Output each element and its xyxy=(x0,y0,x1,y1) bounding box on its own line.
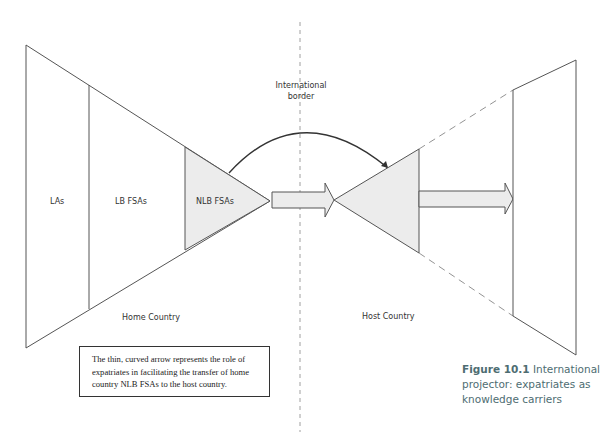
nlb-fsas-label: NLB FSAs xyxy=(196,197,234,206)
expansion-line-bottom xyxy=(419,253,513,316)
curved-arrow-head-icon xyxy=(381,161,388,168)
international-border-label-line1: International xyxy=(271,80,331,91)
host-block-arrow xyxy=(419,183,513,214)
home-country-label: Home Country xyxy=(122,313,180,322)
host-country-triangle xyxy=(334,149,419,253)
international-border-label: International border xyxy=(271,80,331,102)
expatriate-curved-arrow xyxy=(229,133,388,173)
host-country-label: Host Country xyxy=(362,312,415,321)
host-expansion-trapezoid xyxy=(513,60,576,355)
figure-number: Figure 10.1 xyxy=(462,363,530,375)
expansion-line-top xyxy=(419,90,513,149)
explanatory-note: The thin, curved arrow represents the ro… xyxy=(79,346,270,397)
las-label: LAs xyxy=(50,197,64,206)
figure-caption: Figure 10.1 International projector: exp… xyxy=(462,362,600,407)
lb-fsas-label: LB FSAs xyxy=(115,197,147,206)
transfer-block-arrow xyxy=(272,183,334,217)
international-border-label-line2: border xyxy=(271,91,331,102)
